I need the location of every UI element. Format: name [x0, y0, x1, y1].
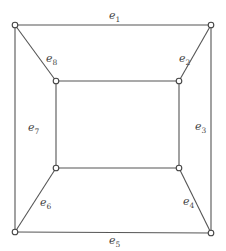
- vertex-outer-bottom-right: [208, 230, 214, 236]
- label-e1: e1: [109, 9, 120, 24]
- vertex-inner-top-right: [176, 78, 182, 84]
- vertex-inner-bottom-right: [176, 165, 182, 171]
- label-e5: e5: [109, 234, 121, 249]
- vertex-inner-top-left: [53, 78, 59, 84]
- vertex-inner-bottom-left: [53, 165, 59, 171]
- label-e8: e8: [46, 52, 58, 67]
- label-e7: e7: [28, 121, 40, 136]
- vertex-outer-top-left: [12, 22, 18, 28]
- label-e6: e6: [40, 196, 52, 211]
- label-e2: e2: [179, 52, 191, 67]
- edge-e6: [15, 168, 56, 232]
- vertex-outer-bottom-left: [12, 229, 18, 235]
- edge-e5: [15, 232, 211, 233]
- vertex-outer-top-right: [208, 22, 214, 28]
- label-e3: e3: [195, 120, 207, 135]
- graph-diagram: e1 e2 e3 e4 e5 e6 e7 e8: [0, 0, 226, 251]
